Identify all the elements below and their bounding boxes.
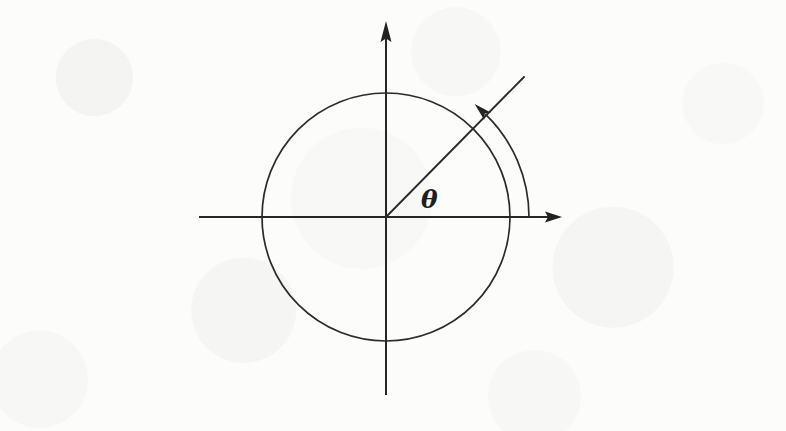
unit-circle-diagram: θ — [0, 0, 786, 431]
angle-arc — [485, 114, 529, 217]
terminal-ray — [386, 77, 524, 217]
angle-label-theta: θ — [421, 185, 438, 214]
figure-canvas: θ — [0, 0, 786, 431]
